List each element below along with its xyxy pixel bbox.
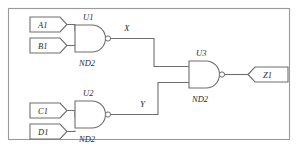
input-pin-b1-label: B1 — [38, 41, 47, 51]
logic-circuit-diagram: A1 B1 U1 ND2 X C1 D1 U2 ND2 Y — [0, 0, 299, 154]
input-pin-d1[interactable] — [30, 124, 67, 139]
input-pin-a1-label: A1 — [37, 20, 47, 30]
wire-c1-to-u2 — [67, 111, 75, 118]
input-pin-c1[interactable] — [30, 103, 67, 118]
gate-u3-type-label: ND2 — [191, 94, 209, 104]
gate-u2-inversion-bubble — [105, 112, 110, 117]
gate-u1-ref-label: U1 — [83, 12, 93, 22]
gate-u3-body[interactable] — [189, 61, 219, 88]
gate-u2-type-label: ND2 — [78, 134, 96, 144]
gate-u1-body[interactable] — [75, 25, 106, 52]
wire-a1-to-u1 — [67, 25, 75, 32]
net-x-label: X — [123, 23, 130, 33]
circuit-canvas: A1 B1 U1 ND2 X C1 D1 U2 ND2 Y — [0, 0, 299, 154]
gate-u2-body[interactable] — [75, 101, 106, 128]
input-pin-d1-label: D1 — [37, 127, 48, 137]
output-pin-z1-label: Z1 — [263, 70, 272, 80]
gate-u3-ref-label: U3 — [196, 48, 206, 58]
gate-u3-inversion-bubble — [219, 72, 224, 77]
wire-b1-to-u1 — [67, 45, 75, 46]
wire-net-x — [111, 39, 189, 67]
gate-u1-type-label: ND2 — [78, 58, 96, 68]
gate-u2-ref-label: U2 — [83, 88, 94, 98]
input-pin-c1-label: C1 — [38, 106, 48, 116]
wire-d1-to-u2 — [67, 131, 75, 132]
input-pin-b1[interactable] — [30, 38, 67, 53]
input-pin-a1[interactable] — [30, 17, 67, 32]
gate-u1-inversion-bubble — [105, 36, 110, 41]
wire-net-y — [111, 83, 189, 115]
net-y-label: Y — [140, 99, 146, 109]
